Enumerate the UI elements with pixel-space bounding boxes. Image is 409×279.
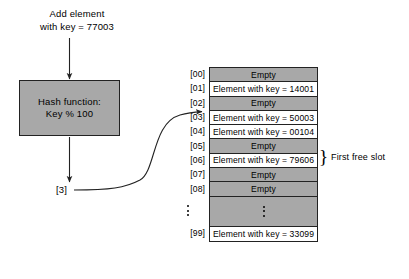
caption-line-2: with key = 77003	[18, 21, 136, 34]
hash-table: EmptyElement with key = 14001EmptyElemen…	[209, 67, 318, 242]
caption-line-1: Add element	[18, 8, 136, 21]
slot-content-label: Element with key = 14001	[213, 84, 314, 94]
first-free-slot-brace: }	[319, 147, 328, 166]
slot-index-label: [02]	[176, 96, 205, 110]
slot-content-label: Element with key = 79606	[213, 155, 314, 165]
hash-function-box: Hash function: Key % 100	[19, 80, 120, 136]
hash-table-diagram: Add element with key = 77003 Hash functi…	[0, 0, 409, 279]
ellipsis-dot	[187, 205, 189, 207]
slot-index-label: [99]	[176, 226, 205, 240]
table-row: Element with key = 50003	[210, 111, 317, 125]
table-row: Element with key = 33099	[210, 227, 317, 241]
slot-content-label: Empty	[251, 141, 276, 151]
index-ellipsis	[176, 196, 205, 226]
diagram-caption: Add element with key = 77003	[18, 8, 136, 33]
slot-content-label: Element with key = 50003	[213, 113, 314, 123]
table-row: Empty	[210, 139, 317, 153]
slot-index-label: [06]	[176, 153, 205, 167]
slot-content-label: Empty	[251, 170, 276, 180]
slot-content-label: Element with key = 00104	[213, 127, 314, 137]
slot-index-label: [03]	[176, 110, 205, 124]
ellipsis-dot	[187, 214, 189, 216]
slot-content-label: Element with key = 33099	[213, 229, 314, 239]
slot-index-label: [08]	[176, 181, 205, 195]
slot-index-label: [04]	[176, 124, 205, 138]
slot-ellipsis	[210, 197, 317, 227]
ellipsis-dot	[263, 215, 265, 217]
slot-index-column: [00][01][02][03][04][05][06][07][08][99]	[176, 67, 205, 240]
ellipsis-dot	[263, 206, 265, 208]
table-row: Element with key = 00104	[210, 125, 317, 139]
slot-index-label: [00]	[176, 67, 205, 81]
ellipsis-dot	[263, 210, 265, 212]
slot-content-label: Empty	[251, 98, 276, 108]
computed-index-label: [3]	[56, 184, 67, 195]
ellipsis-dot	[187, 210, 189, 212]
slot-content-label: Empty	[251, 70, 276, 80]
slot-content-label: Empty	[251, 184, 276, 194]
table-row: Empty	[210, 68, 317, 82]
hash-function-formula: Key % 100	[46, 108, 93, 121]
table-row: Empty	[210, 182, 317, 196]
slot-index-label: [05]	[176, 138, 205, 152]
slot-index-label: [07]	[176, 167, 205, 181]
table-row: Element with key = 14001	[210, 82, 317, 96]
table-row: Empty	[210, 168, 317, 182]
hash-function-label: Hash function:	[38, 96, 101, 109]
slot-index-label: [01]	[176, 81, 205, 95]
table-row: Element with key = 79606	[210, 154, 317, 168]
first-free-slot-annotation: First free slot	[331, 152, 385, 162]
table-row: Empty	[210, 97, 317, 111]
